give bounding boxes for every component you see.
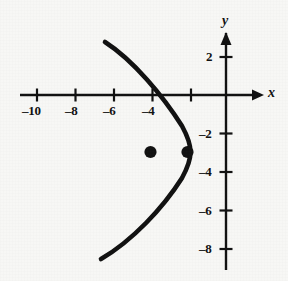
x-axis-arrow [252, 90, 264, 101]
y-tick-label--8: –8 [199, 241, 212, 257]
x-axis-label: x [268, 85, 275, 101]
x-axis [20, 89, 264, 102]
x-tick-label--4: –4 [142, 103, 155, 119]
focus-point [144, 146, 156, 158]
y-axis-label: y [222, 13, 228, 29]
x-tick-label--8: –8 [65, 103, 78, 119]
graph-canvas [0, 0, 288, 281]
y-tick-label--4: –4 [199, 164, 212, 180]
y-axis [220, 32, 233, 270]
vertex-point [181, 146, 193, 158]
figure-page: { "figure": { "kind": "cartesian-plot", … [0, 0, 288, 281]
x-tick-label--6: –6 [103, 103, 116, 119]
y-axis-arrow [221, 32, 232, 45]
y-tick-label--6: –6 [199, 203, 212, 219]
y-tick-label-2: 2 [206, 49, 212, 65]
x-tick-label--10: –10 [22, 103, 41, 119]
y-tick-label--2: –2 [199, 126, 212, 142]
